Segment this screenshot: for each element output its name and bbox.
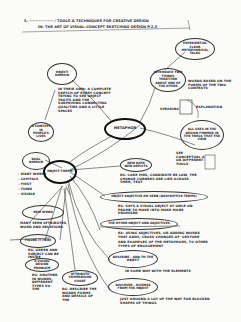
- annotation-14: EG: DESCRIBE THE WORDS FORMS AND DETAILS…: [62, 288, 98, 302]
- annotation-domain-desc: IN THEIR OWN: A COMPLETE SKETCH OF EVERY…: [58, 88, 112, 113]
- annotation-12: EG: GREEN AND SUBJECT CAN BE INSIDE: [28, 249, 68, 260]
- header-line-2: IN: THE ART OF VISUAL-CONCEPT SKETCHING …: [38, 25, 157, 29]
- node-figure: FIGURE IT HERE: [20, 234, 56, 248]
- node-introduce: INTRODUCE TWO THINGS TOGETHER ABOUT ONE …: [150, 68, 186, 92]
- header-line-1: 5. ~~~~~~~~ / TOOLS & TECHNIQUES FOR CRE…: [24, 19, 149, 23]
- annotation-5: EG: CARE PINS, CANDIDATE BE LOW, THE CHA…: [120, 174, 200, 185]
- center-node-metaphor: METAPHOR: [104, 118, 146, 140]
- annotation-8: AND EXAMPLES OF THE METAPHORS, TO OTHER …: [118, 241, 208, 248]
- annotation-3: SPEAKING: [160, 108, 182, 112]
- annotation-2: EXPLANATION: [196, 106, 236, 110]
- node-discover: DISCOVER - DIVERSE FROM THE OBJECT: [108, 278, 158, 296]
- annotation-13: EG: ANOTHER IN WORDS, DIFFERENT TYPES SO…: [32, 274, 58, 292]
- node-object-domain: OBJECT DOMAIN: [47, 63, 77, 85]
- node-object-two: THE OTHER OBJECT AND ADJECTIVES: [100, 218, 178, 230]
- annotation-1: WORDS BASED ON THE FORMS OF THE TWO CONT…: [188, 80, 236, 91]
- node-usage: ALL USES IN THE DESIGN FORMED IN THE TOO…: [180, 120, 224, 150]
- annotation-9: IN SOME WAY WITH THE ELEMENTS: [125, 270, 205, 274]
- annotation-6: EG: SAYS A VISUAL OBJECT AT ONCE ON FRAM…: [118, 205, 198, 216]
- node-visual: A VISUAL DESIGN PROBLEM: [25, 258, 59, 272]
- node-attributes: ATTRIBUTE COMPARISON CHART: [62, 270, 98, 286]
- node-experiential: EXPERIENTIAL CLEAR METAPHORICAL TALKS: [175, 38, 215, 60]
- node-object-adjective: OBJECT ADJECTIVE OR VERB (DESCRIPTIVE TE…: [100, 191, 208, 203]
- annotation-10: JUST AROUND A LOT OF THE WAY FOR BLOCKED…: [120, 298, 210, 305]
- mind-map-page: 5. ~~~~~~~~ / TOOLS & TECHNIQUES FOR CRE…: [0, 0, 241, 322]
- node-describe: DESCRIBE - ADD TO THE OBJECT: [108, 250, 158, 268]
- node-object-forms: OBJECT FORMS: [43, 160, 77, 184]
- node-new-depict: NEW DATA NEW DEPICTS: [120, 158, 152, 172]
- node-context: A CONTEXT IN PEOPLE'S LIVES: [28, 122, 54, 142]
- annotation-4: SEE CONCEPTUAL A OR DIFFERENT TOOLS: [176, 152, 206, 166]
- node-new-word: NEW WORD: [22, 205, 64, 220]
- annotation-11: MANY SEEN ATTRIBUTES, WORD AND RELATIONS: [20, 222, 70, 229]
- annotation-7: EX: USING ADJECTIVES, OR ADDING WORDS TH…: [118, 232, 208, 239]
- bullet-item: - VISIBLE: [18, 193, 35, 197]
